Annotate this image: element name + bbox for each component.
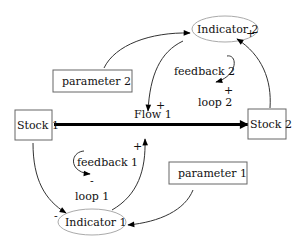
feedback-1-label: feedback 1 <box>77 156 138 169</box>
parameter-2[interactable]: parameter 2 <box>53 70 132 92</box>
polarity-sign: + <box>156 99 165 112</box>
polarity-sign: + <box>133 140 142 153</box>
polarity-sign: + <box>246 27 255 40</box>
link-stock-1-to-indicator-1[interactable] <box>33 143 66 213</box>
causal-loop-diagram: Flow 1 Stock 1 Stock 2 Indicator 2 Indic… <box>0 0 304 244</box>
link-stock-2-to-indicator-2[interactable] <box>237 39 270 108</box>
indicator-1[interactable]: Indicator 1 <box>58 209 127 235</box>
stock-1[interactable]: Stock 1 <box>15 110 59 140</box>
parameter-1[interactable]: parameter 1 <box>169 162 247 184</box>
polarity-sign: - <box>54 210 58 223</box>
link-parameter-1-to-indicator-1[interactable] <box>128 190 193 225</box>
loop-2-label: loop 2 <box>198 96 232 109</box>
parameter-1-label: parameter 1 <box>178 167 247 180</box>
stock-1-label: Stock 1 <box>17 119 59 132</box>
feedback-2-label: feedback 2 <box>174 65 235 78</box>
parameter-2-label: parameter 2 <box>62 75 131 88</box>
indicator-1-label: Indicator 1 <box>65 216 127 229</box>
stock-2-label: Stock 2 <box>250 118 292 131</box>
loop-1-label: loop 1 <box>75 190 109 203</box>
loop-1-polarity: - <box>90 175 94 188</box>
link-parameter-2-to-indicator-2[interactable] <box>104 33 190 68</box>
flow-1-label: Flow 1 <box>134 108 172 121</box>
stock-2[interactable]: Stock 2 <box>248 109 292 139</box>
